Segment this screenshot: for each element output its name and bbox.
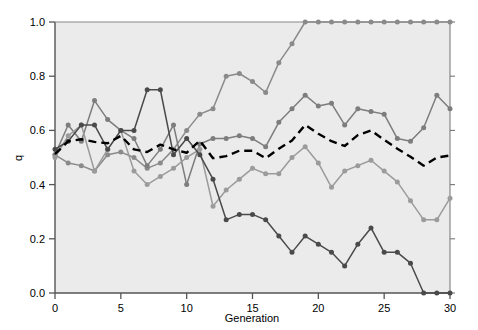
data-point-marker [171,166,176,171]
data-point-marker [92,98,97,103]
data-point-marker [276,171,281,176]
data-point-marker [250,79,255,84]
data-point-marker [92,169,97,174]
data-point-marker [290,250,295,255]
data-point-marker [118,150,123,155]
data-point-marker [211,177,216,182]
data-point-marker [105,117,110,122]
data-point-marker [224,136,229,141]
data-point-marker [132,169,137,174]
data-point-marker [211,106,216,111]
data-point-marker [79,163,84,168]
data-point-marker [105,147,110,152]
data-point-marker [66,122,71,127]
data-point-marker [66,133,71,138]
data-point-marker [303,144,308,149]
data-point-marker [408,20,413,25]
data-point-marker [158,160,163,165]
x-tick-label: 0 [52,302,58,314]
data-point-marker [237,177,242,182]
data-point-marker [290,41,295,46]
x-tick-label: 30 [444,302,456,314]
data-point-marker [303,234,308,239]
data-point-marker [329,101,334,106]
data-point-marker [316,242,321,247]
data-point-marker [197,147,202,152]
data-point-marker [434,93,439,98]
data-point-marker [408,139,413,144]
data-point-marker [250,136,255,141]
x-tick-label: 10 [181,302,193,314]
data-point-marker [303,20,308,25]
y-tick-label: 0.2 [30,233,45,245]
data-point-marker [276,234,281,239]
data-point-marker [369,20,374,25]
data-point-marker [355,242,360,247]
x-tick-label: 25 [378,302,390,314]
data-point-marker [448,20,453,25]
data-point-marker [158,174,163,179]
y-tick-label: 0.0 [30,287,45,299]
data-point-marker [382,20,387,25]
x-axis-title: Generation [225,312,279,324]
data-point-marker [434,217,439,222]
data-point-marker [369,225,374,230]
data-point-marker [276,120,281,125]
data-point-marker [329,250,334,255]
drift-simulation-line-chart: 0.00.20.40.60.81.0 051015202530 q Genera… [0,0,478,330]
data-point-marker [342,169,347,174]
x-tick-label: 5 [118,302,124,314]
y-tick-label: 1.0 [30,16,45,28]
data-point-marker [395,250,400,255]
data-point-marker [303,93,308,98]
y-tick-labels-group: 0.00.20.40.60.81.0 [30,16,45,299]
data-point-marker [224,188,229,193]
data-point-marker [158,147,163,152]
data-point-marker [342,263,347,268]
data-point-marker [237,133,242,138]
data-point-marker [132,128,137,133]
data-point-marker [92,122,97,127]
chart-figure: 0.00.20.40.60.81.0 051015202530 q Genera… [0,0,478,330]
data-point-marker [355,163,360,168]
data-point-marker [395,20,400,25]
data-point-marker [434,20,439,25]
data-point-marker [250,166,255,171]
data-point-marker [421,20,426,25]
data-point-marker [224,217,229,222]
data-point-marker [145,182,150,187]
data-point-marker [263,90,268,95]
y-tick-label: 0.6 [30,124,45,136]
y-tick-label: 0.4 [30,179,45,191]
data-point-marker [421,217,426,222]
data-point-marker [66,160,71,165]
data-point-marker [355,20,360,25]
data-point-marker [448,291,453,296]
data-point-marker [237,71,242,76]
data-point-marker [448,196,453,201]
data-point-marker [395,136,400,141]
data-point-marker [224,74,229,79]
data-point-marker [342,20,347,25]
x-tick-label: 20 [312,302,324,314]
data-point-marker [263,171,268,176]
data-point-marker [408,198,413,203]
data-point-marker [158,87,163,92]
y-axis-title: q [12,155,24,161]
data-point-marker [171,152,176,157]
data-point-marker [329,20,334,25]
data-point-marker [79,122,84,127]
data-point-marker [211,204,216,209]
data-point-marker [408,261,413,266]
data-point-marker [421,125,426,130]
data-point-marker [382,112,387,117]
data-point-marker [197,152,202,157]
data-point-marker [237,212,242,217]
data-point-marker [184,182,189,187]
data-point-marker [448,106,453,111]
data-point-marker [184,155,189,160]
data-point-marker [355,106,360,111]
data-point-marker [276,60,281,65]
data-point-marker [382,169,387,174]
data-point-marker [316,160,321,165]
